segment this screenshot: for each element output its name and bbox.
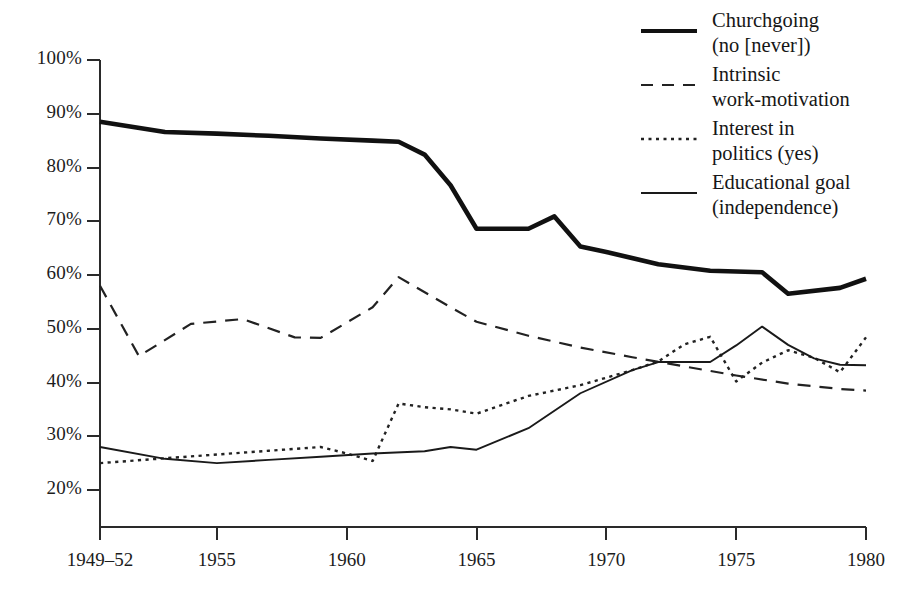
y-axis-tick-label: 50% [47,316,82,338]
legend-swatch-icon [640,74,698,80]
y-axis-tick-label: 60% [47,262,82,284]
y-axis-tick-label: 80% [47,155,82,177]
legend-entry-4[interactable]: Educational goal (independence) [640,170,920,220]
legend-swatch-icon [640,20,698,26]
y-axis-tick-label: 90% [47,101,82,123]
legend-label: Educational goal (independence) [712,170,920,220]
y-axis-tick-label: 20% [47,477,82,499]
y-axis-tick-label: 100% [37,47,82,69]
series-line-3 [100,337,866,463]
legend-entry-1[interactable]: Churchgoing (no [never]) [640,8,920,58]
y-axis-tick-label: 40% [47,370,82,392]
series-line-4 [100,327,866,464]
legend-label: Interest in politics (yes) [712,116,920,166]
legend-label: Intrinsic work-motivation [712,62,920,112]
chart-legend: Churchgoing (no [never])Intrinsic work-m… [640,8,920,224]
y-axis-tick-label: 70% [47,208,82,230]
legend-label: Churchgoing (no [never]) [712,8,920,58]
legend-entry-3[interactable]: Interest in politics (yes) [640,116,920,166]
chart-figure: 20%30%40%50%60%70%80%90%100% 1949–521955… [0,0,923,592]
legend-swatch-icon [640,128,698,134]
y-axis-tick-label: 30% [47,423,82,445]
legend-swatch-icon [640,182,698,188]
legend-entry-2[interactable]: Intrinsic work-motivation [640,62,920,112]
